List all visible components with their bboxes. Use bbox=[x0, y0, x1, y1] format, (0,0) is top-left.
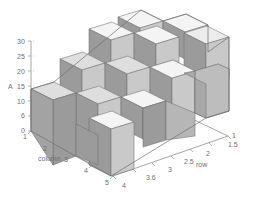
z-axis-label: A bbox=[8, 83, 13, 90]
y-tick-3: 3 bbox=[168, 166, 172, 173]
x-tick-4: 4 bbox=[84, 167, 88, 174]
z-tick-30: 30 bbox=[17, 38, 25, 45]
x-tick-5: 5 bbox=[105, 179, 109, 186]
z-tick-25: 25 bbox=[17, 53, 25, 60]
bar-front-col2 bbox=[31, 89, 76, 165]
x-axis-label: column bbox=[38, 155, 61, 162]
y-tick-1: 1 bbox=[232, 132, 236, 139]
x-tick-1: 1 bbox=[23, 133, 27, 140]
y-tick-2-5: 2.5 bbox=[184, 158, 194, 165]
y-tick-4: 4 bbox=[122, 182, 126, 189]
z-tick-20: 20 bbox=[17, 68, 25, 75]
z-tick-5: 6 bbox=[21, 112, 25, 119]
y-tick-2: 2 bbox=[206, 150, 210, 157]
z-tick-15: 15 bbox=[17, 83, 25, 90]
y-tick-3-5: 3.6 bbox=[146, 174, 156, 181]
x-tick-2: 2 bbox=[43, 145, 47, 152]
x-tick-3: 3 bbox=[64, 156, 68, 163]
y-tick-1-5: 1.5 bbox=[228, 141, 238, 148]
chart-canvas: 30 25 20 15 10 6 0 A 1 2 3 4 5 column 1 … bbox=[0, 0, 257, 197]
z-tick-10: 10 bbox=[17, 98, 25, 105]
y-axis-label: row bbox=[196, 161, 207, 168]
bar3-chart-svg bbox=[0, 0, 257, 197]
